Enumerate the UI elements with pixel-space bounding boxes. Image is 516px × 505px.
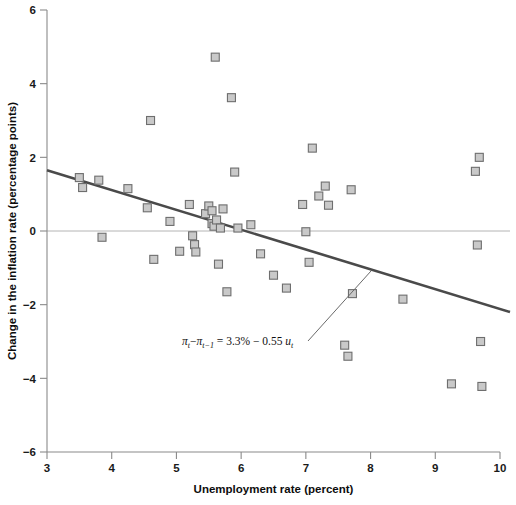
- regression-equation: πt−πt−1 = 3.3% − 0.55 ut: [182, 335, 294, 350]
- data-point: [219, 205, 227, 213]
- data-point: [299, 200, 307, 208]
- data-point: [344, 352, 352, 360]
- data-point: [247, 221, 255, 229]
- x-tick-label-4: 7: [303, 462, 309, 474]
- data-point: [302, 228, 310, 236]
- x-tick-label-1: 4: [109, 462, 116, 474]
- data-point: [325, 201, 333, 209]
- data-point: [341, 341, 349, 349]
- data-point: [227, 94, 235, 102]
- data-point: [124, 185, 132, 193]
- data-point: [166, 217, 174, 225]
- x-tick-label-3: 6: [238, 462, 244, 474]
- y-tick-label-0: −6: [23, 446, 36, 458]
- data-point: [315, 192, 323, 200]
- x-tick-label-2: 5: [173, 462, 180, 474]
- data-point: [471, 167, 479, 175]
- data-point: [308, 144, 316, 152]
- data-point: [399, 295, 407, 303]
- annotation-leader-line: [308, 271, 371, 341]
- data-point: [257, 250, 265, 258]
- data-point: [191, 241, 199, 249]
- scatter-plot-figure: −6−4−20246345678910Unemployment rate (pe…: [0, 0, 516, 505]
- data-point: [447, 380, 455, 388]
- x-tick-label-6: 9: [432, 462, 438, 474]
- data-point: [216, 224, 224, 232]
- data-point: [270, 271, 278, 279]
- x-tick-label-7: 10: [494, 462, 507, 474]
- data-point: [192, 248, 200, 256]
- data-point: [150, 255, 158, 263]
- y-tick-label-5: 4: [30, 78, 37, 90]
- data-point: [347, 186, 355, 194]
- data-point: [305, 258, 313, 266]
- chart-canvas: −6−4−20246345678910Unemployment rate (pe…: [0, 0, 516, 505]
- y-tick-label-6: 6: [30, 4, 36, 16]
- y-tick-label-1: −4: [23, 373, 37, 385]
- data-point: [79, 184, 87, 192]
- data-point: [211, 53, 219, 61]
- data-point: [213, 216, 221, 224]
- data-point: [98, 233, 106, 241]
- y-tick-label-3: 0: [30, 225, 36, 237]
- data-point: [176, 247, 184, 255]
- data-point: [475, 153, 483, 161]
- data-point: [473, 241, 481, 249]
- data-point: [348, 290, 356, 298]
- data-point: [282, 284, 290, 292]
- data-point: [478, 382, 486, 390]
- data-point: [223, 288, 231, 296]
- data-point: [143, 204, 151, 212]
- data-point: [189, 232, 197, 240]
- x-axis-title: Unemployment rate (percent): [194, 483, 354, 495]
- data-point: [231, 168, 239, 176]
- data-point: [185, 200, 193, 208]
- data-point: [477, 338, 485, 346]
- y-tick-label-2: −2: [23, 299, 36, 311]
- y-tick-label-4: 2: [30, 152, 36, 164]
- y-axis-title: Change in the inflation rate (percentage…: [6, 102, 18, 360]
- data-point: [234, 224, 242, 232]
- data-point: [75, 174, 83, 182]
- data-point: [208, 207, 216, 215]
- data-point: [147, 117, 155, 125]
- data-point: [214, 260, 222, 268]
- data-point: [95, 176, 103, 184]
- x-tick-label-0: 3: [44, 462, 50, 474]
- regression-line: [47, 170, 510, 312]
- x-tick-label-5: 8: [367, 462, 374, 474]
- data-point: [321, 182, 329, 190]
